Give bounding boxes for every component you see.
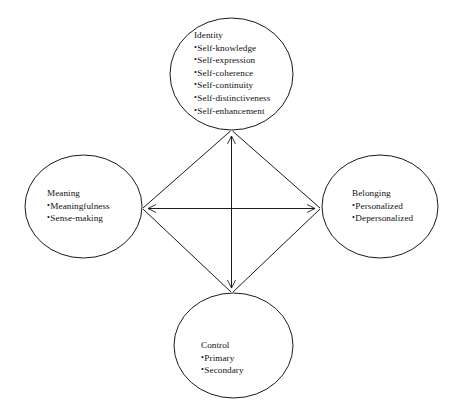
concept-diagram: Identity Self-knowledge Self-expression … [0, 0, 461, 412]
node-item-identity-1: Self-expression [194, 54, 270, 67]
node-label-meaning: Meaning Meaningfulness Sense-making [47, 188, 110, 225]
connector-meaning-control [143, 209, 231, 292]
node-title-meaning: Meaning [47, 188, 110, 200]
node-item-meaning-0: Meaningfulness [47, 200, 110, 213]
connector-identity-meaning [143, 131, 231, 208]
node-item-belonging-0: Personalized [352, 200, 413, 213]
node-label-control: Control Primary Secondary [201, 340, 244, 377]
node-item-identity-5: Self-enhancement [194, 105, 270, 118]
node-label-identity: Identity Self-knowledge Self-expression … [194, 30, 270, 117]
node-item-control-1: Secondary [201, 364, 244, 377]
node-item-identity-0: Self-knowledge [194, 42, 270, 55]
node-item-meaning-1: Sense-making [47, 212, 110, 225]
node-label-belonging: Belonging Personalized Depersonalized [352, 188, 413, 225]
node-title-identity: Identity [194, 30, 270, 42]
node-item-identity-2: Self-coherence [194, 67, 270, 80]
connector-identity-belonging [233, 131, 321, 208]
node-title-control: Control [201, 340, 244, 352]
node-item-belonging-1: Depersonalized [352, 212, 413, 225]
node-item-control-0: Primary [201, 352, 244, 365]
node-title-belonging: Belonging [352, 188, 413, 200]
connector-belonging-control [233, 209, 320, 292]
node-item-identity-3: Self-continuity [194, 79, 270, 92]
node-item-identity-4: Self-distinctiveness [194, 92, 270, 105]
